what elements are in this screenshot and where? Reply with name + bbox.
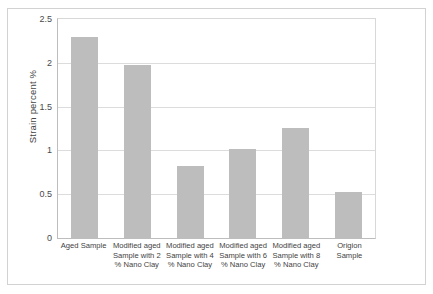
y-axis-title: Strain percent % bbox=[27, 37, 38, 177]
bar-slot bbox=[322, 19, 375, 238]
x-axis-category-label: Modified aged Sample with 4 % Nano Clay bbox=[163, 241, 216, 270]
x-axis-category-label: Origion Sample bbox=[323, 241, 376, 270]
bar-slot bbox=[164, 19, 217, 238]
bar bbox=[229, 149, 256, 238]
bar bbox=[177, 166, 204, 238]
bar bbox=[124, 65, 151, 238]
y-axis-tick-label: 0.5 bbox=[39, 189, 52, 199]
chart-figure: Strain percent % 00.511.522.5 Aged Sampl… bbox=[7, 8, 426, 285]
bar-slot bbox=[269, 19, 322, 238]
bar-slot bbox=[216, 19, 269, 238]
x-axis-category-labels: Aged SampleModified aged Sample with 2 %… bbox=[57, 241, 376, 270]
bar bbox=[71, 37, 98, 238]
y-axis-tick-label: 0 bbox=[47, 233, 52, 243]
y-axis-tick-label: 2.5 bbox=[39, 14, 52, 24]
bar bbox=[282, 128, 309, 238]
x-axis-category-label: Modified aged Sample with 2 % Nano Clay bbox=[110, 241, 163, 270]
x-axis-category-label: Modified aged Sample with 8 % Nano Clay bbox=[270, 241, 323, 270]
x-axis-category-label: Modified aged Sample with 6 % Nano Clay bbox=[217, 241, 270, 270]
x-axis-category-label: Aged Sample bbox=[57, 241, 110, 270]
y-axis-tick-label: 1 bbox=[47, 145, 52, 155]
plot-area: 00.511.522.5 bbox=[57, 18, 376, 239]
bar-series bbox=[58, 19, 375, 238]
y-axis-tick-label: 2 bbox=[47, 58, 52, 68]
y-axis-tick-label: 1.5 bbox=[39, 102, 52, 112]
bar-slot bbox=[58, 19, 111, 238]
bar-slot bbox=[111, 19, 164, 238]
bar bbox=[335, 192, 362, 238]
